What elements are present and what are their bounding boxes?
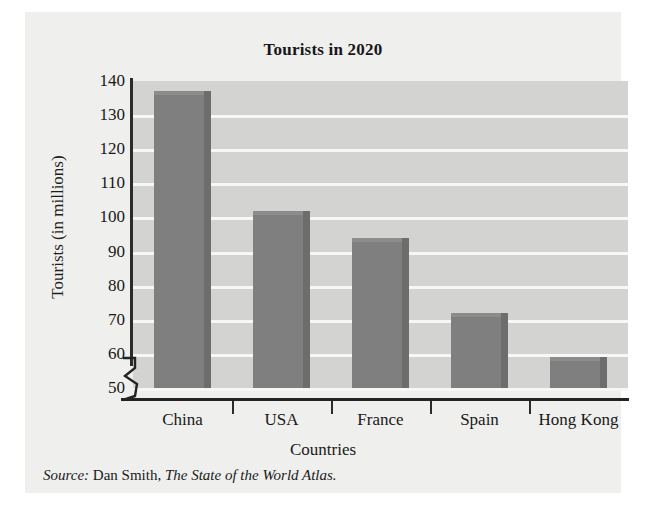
x-tick-label: Hong Kong (509, 410, 647, 430)
bar-highlight (352, 238, 409, 242)
y-axis-line (130, 78, 133, 366)
bar-shadow (303, 211, 310, 388)
y-tick-label: 100 (61, 208, 125, 225)
y-tick-label: 110 (61, 174, 125, 191)
x-axis-title: Countries (25, 440, 621, 460)
bar-france (352, 238, 409, 388)
bar-highlight (154, 91, 211, 95)
y-tick-label: 130 (61, 106, 125, 123)
y-tick-label: 60 (61, 345, 125, 362)
source-work: The State of the World Atlas. (165, 467, 337, 483)
bar-shadow (600, 357, 607, 388)
y-tick-label: 80 (61, 277, 125, 294)
bar-usa (253, 211, 310, 388)
chart-figure: Tourists in 2020 Tourists (in millions) … (25, 12, 621, 493)
bar-highlight (451, 313, 508, 317)
gridline (133, 388, 628, 391)
bar-shadow (402, 238, 409, 388)
source-label: Source: (43, 467, 89, 483)
y-tick-label: 90 (61, 243, 125, 260)
source-note: Source: Dan Smith, The State of the Worl… (43, 467, 337, 484)
y-tick-label: 50 (61, 379, 125, 396)
plot-area (133, 81, 628, 388)
y-tick-label: 140 (61, 72, 125, 89)
chart-title: Tourists in 2020 (25, 40, 621, 60)
bar-highlight (550, 357, 607, 361)
bar-china (154, 91, 211, 388)
y-tick-label: 70 (61, 311, 125, 328)
bar-shadow (204, 91, 211, 388)
bar-hong-kong (550, 357, 607, 388)
source-author: Dan Smith, (93, 467, 161, 483)
bar-shadow (501, 313, 508, 388)
bar-highlight (253, 211, 310, 215)
bar-spain (451, 313, 508, 388)
x-axis-line (121, 398, 629, 401)
y-tick-label: 120 (61, 140, 125, 157)
